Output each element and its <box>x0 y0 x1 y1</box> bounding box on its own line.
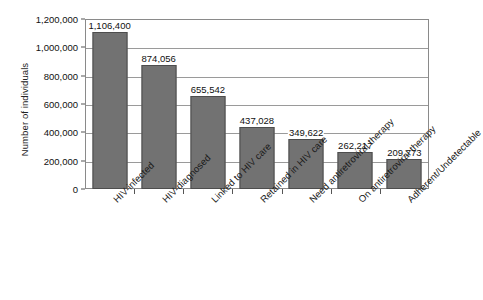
y-tick-label: 400,000 <box>0 127 78 138</box>
bar-value-label: 437,028 <box>239 115 275 126</box>
y-tick-label: 1,200,000 <box>0 14 78 25</box>
y-tick-label: 200,000 <box>0 155 78 166</box>
bar-slot: 874,056 <box>134 19 183 189</box>
y-tick-label: 800,000 <box>0 70 78 81</box>
bar-slot: 1,106,400 <box>85 19 134 189</box>
bar-value-label: 1,106,400 <box>87 20 131 31</box>
y-tick-label: 600,000 <box>0 99 78 110</box>
x-tick-mark <box>282 189 283 194</box>
x-tick-mark <box>232 189 233 194</box>
x-tick-mark <box>331 189 332 194</box>
y-tick-label: 1,000,000 <box>0 42 78 53</box>
bar[interactable] <box>92 32 127 189</box>
bar-value-label: 655,542 <box>190 84 226 95</box>
bar-value-label: 874,056 <box>141 53 177 64</box>
x-tick-mark <box>134 189 135 194</box>
y-tick-label: 0 <box>0 184 78 195</box>
x-tick-mark <box>380 189 381 194</box>
x-tick-mark <box>183 189 184 194</box>
